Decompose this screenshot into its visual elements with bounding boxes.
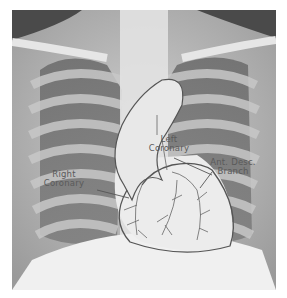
label-right-coronary-line2: Coronary (34, 179, 94, 188)
xray-image: Left Coronary Right Coronary Ant. Desc. … (12, 10, 276, 290)
label-left-coronary-line2: Coronary (144, 144, 194, 153)
label-right-coronary: Right Coronary (34, 170, 94, 188)
label-ant-desc-line2: Branch (202, 167, 264, 176)
label-left-coronary: Left Coronary (144, 135, 194, 153)
label-ant-desc-branch: Ant. Desc. Branch (202, 158, 264, 176)
